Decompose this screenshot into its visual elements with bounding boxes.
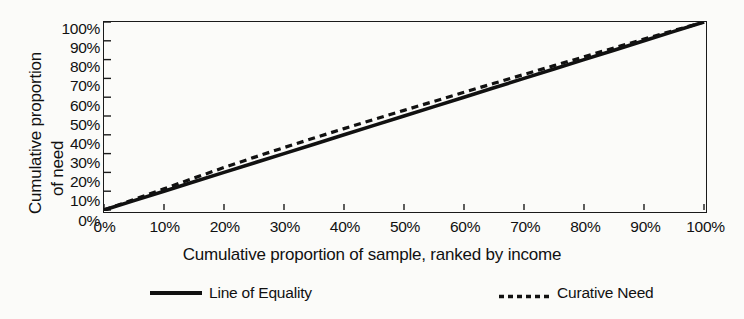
y-axis-ticks bbox=[104, 22, 111, 210]
x-tick-label: 100% bbox=[674, 218, 738, 236]
x-tick-label: 30% bbox=[253, 218, 317, 236]
x-tick-label: 20% bbox=[193, 218, 257, 236]
legend-swatch-solid-icon bbox=[150, 291, 202, 295]
x-tick-label: 50% bbox=[373, 218, 437, 236]
y-tick-label: 30% bbox=[54, 155, 100, 170]
y-axis-title-line-1: Cumulative proportion bbox=[26, 52, 46, 214]
legend-swatch-dashed-icon bbox=[498, 288, 550, 299]
legend-label-curative-need: Curative Need bbox=[557, 284, 653, 302]
y-tick-label: 10% bbox=[54, 193, 100, 208]
legend-label-line-of-equality: Line of Equality bbox=[209, 284, 312, 302]
chart-legend: Line of Equality Curative Need bbox=[0, 282, 744, 312]
x-tick-label: 70% bbox=[493, 218, 557, 236]
x-tick-label: 40% bbox=[313, 218, 377, 236]
y-tick-label: 100% bbox=[54, 21, 100, 36]
y-tick-label: 20% bbox=[54, 174, 100, 189]
y-tick-label: 90% bbox=[54, 40, 100, 55]
x-tick-label: 60% bbox=[433, 218, 497, 236]
plot-area bbox=[103, 21, 707, 213]
x-tick-label: 10% bbox=[133, 218, 197, 236]
x-tick-label: 0% bbox=[73, 218, 137, 236]
x-tick-label: 80% bbox=[553, 218, 617, 236]
y-tick-label: 60% bbox=[54, 98, 100, 113]
x-axis-ticks bbox=[104, 204, 704, 210]
legend-item-curative-need: Curative Need bbox=[498, 282, 653, 304]
y-tick-label: 80% bbox=[54, 59, 100, 74]
y-tick-label: 40% bbox=[54, 136, 100, 151]
y-tick-label: 50% bbox=[54, 117, 100, 132]
x-axis-tick-labels: 0%10%20%30%40%50%60%70%80%90%100% bbox=[103, 218, 707, 240]
plot-svg bbox=[104, 22, 705, 211]
y-axis-title: Cumulative proportion of need bbox=[0, 18, 62, 218]
chart-figure: Cumulative proportion of need 100%90%80%… bbox=[0, 0, 744, 319]
series-line-of-equality bbox=[104, 22, 704, 210]
legend-item-line-of-equality: Line of Equality bbox=[150, 282, 312, 304]
x-axis-title: Cumulative proportion of sample, ranked … bbox=[0, 245, 744, 265]
y-tick-label: 70% bbox=[54, 78, 100, 93]
y-axis-tick-labels: 100%90%80%70%60%50%40%30%20%10%0% bbox=[54, 13, 100, 218]
x-tick-label: 90% bbox=[613, 218, 677, 236]
